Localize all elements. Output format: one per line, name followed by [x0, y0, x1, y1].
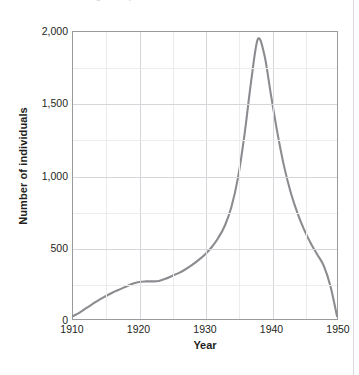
y-minor-gridline-750: [73, 213, 337, 214]
y-minor-gridline-250: [73, 285, 337, 286]
y-axis-tick-labels: 05001,0001,5002,000: [4, 31, 68, 320]
x-tick-label-1950: 1950: [308, 323, 359, 335]
x-gridline-1930: [206, 32, 207, 319]
x-minor-gridline-1915: [106, 32, 107, 319]
y-gridline-1000: [73, 177, 337, 178]
y-tick-text: 1,500: [8, 97, 68, 109]
y-tick-text: 2,000: [8, 25, 68, 37]
y-tick-text: 500: [8, 242, 68, 254]
x-axis-tick-labels: 19101920193019401950: [72, 323, 338, 339]
y-tick-label-500: 500: [8, 248, 68, 260]
plot-area: [72, 31, 338, 320]
y-tick-label-1000: 1,000: [8, 176, 68, 188]
x-gridline-1940: [273, 32, 274, 319]
y-minor-gridline-1250: [73, 140, 337, 141]
y-gridline-1500: [73, 104, 337, 105]
x-tick-label-1910: 1910: [42, 323, 102, 335]
x-tick-label-1940: 1940: [242, 323, 302, 335]
x-minor-gridline-1925: [173, 32, 174, 319]
y-tick-label-1500: 1,500: [8, 103, 68, 115]
line-chart-figure: Number of individuals 05001,0001,5002,00…: [0, 0, 359, 375]
y-minor-gridline-1750: [73, 68, 337, 69]
x-gridline-1920: [140, 32, 141, 319]
x-minor-gridline-1935: [239, 32, 240, 319]
y-tick-text: 1,000: [8, 170, 68, 182]
y-tick-label-2000: 2,000: [8, 31, 68, 43]
y-gridline-500: [73, 249, 337, 250]
x-tick-label-1930: 1930: [175, 323, 235, 335]
x-axis-title: Year: [72, 339, 338, 351]
series-line-number-of-individuals: [73, 32, 337, 319]
x-tick-label-1920: 1920: [109, 323, 169, 335]
x-minor-gridline-1945: [306, 32, 307, 319]
